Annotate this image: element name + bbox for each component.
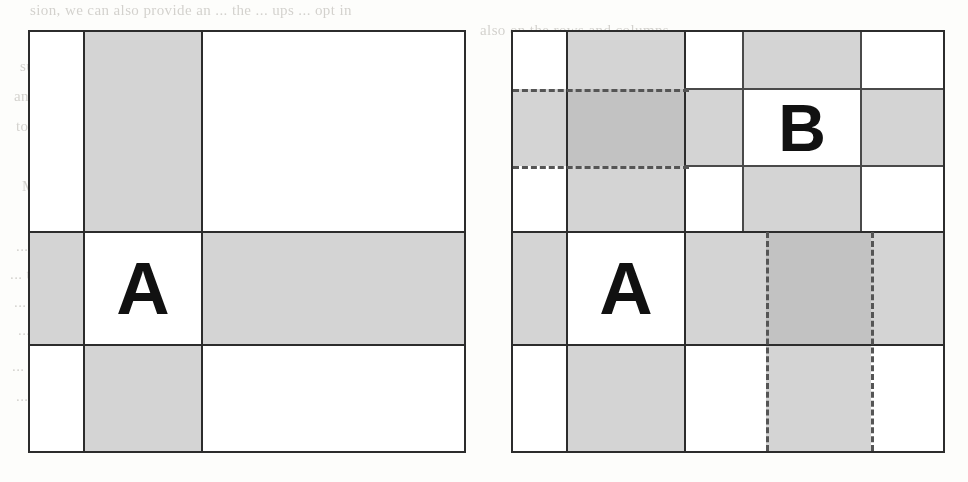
cell-top-c3-band — [685, 89, 743, 166]
cell-top-c1-a — [513, 32, 567, 89]
cell-top-c3-b — [685, 166, 743, 232]
cell-mid-vband — [766, 232, 871, 345]
label-a: A — [567, 232, 685, 345]
cell-bot-c2 — [567, 345, 685, 451]
cell-mid-c3 — [685, 232, 766, 345]
figure-container: A — [0, 0, 968, 482]
label-b: B — [743, 89, 861, 166]
dashed-guide-horizontal-top — [513, 89, 689, 92]
cell-top-c3-a — [685, 32, 743, 89]
cell-r1c3 — [202, 32, 464, 232]
cell-r3c1 — [30, 345, 84, 451]
cell-top-c1-band — [513, 89, 567, 166]
cell-top-c5-a — [861, 32, 943, 89]
cell-top-c5-b — [861, 166, 943, 232]
cell-top-c2-a — [567, 32, 685, 89]
cell-top-c5-band — [861, 89, 943, 166]
dashed-guide-vertical-left — [766, 232, 769, 451]
cell-top-c2-band — [567, 89, 685, 166]
cell-mid-c5 — [871, 232, 943, 345]
cell-r2c1 — [30, 232, 84, 345]
cell-r1c2 — [84, 32, 202, 232]
label-a: A — [84, 232, 202, 345]
cell-r3c3 — [202, 345, 464, 451]
cell-top-c4-b — [743, 166, 861, 232]
cell-bot-c5 — [871, 345, 943, 451]
cell-bot-vband — [766, 345, 871, 451]
grid-diagram-right: B A — [511, 30, 945, 453]
cell-r3c2 — [84, 345, 202, 451]
cell-top-c4-a — [743, 32, 861, 89]
grid-diagram-left: A — [28, 30, 466, 453]
cell-mid-c1 — [513, 232, 567, 345]
dashed-guide-vertical-right — [871, 232, 874, 451]
dashed-guide-horizontal-bottom — [513, 166, 689, 169]
cell-top-c1-b — [513, 166, 567, 232]
cell-top-c2-b — [567, 166, 685, 232]
cell-bot-c1 — [513, 345, 567, 451]
cell-r1c1 — [30, 32, 84, 232]
cell-bot-c3 — [685, 345, 766, 451]
cell-r2c3 — [202, 232, 464, 345]
